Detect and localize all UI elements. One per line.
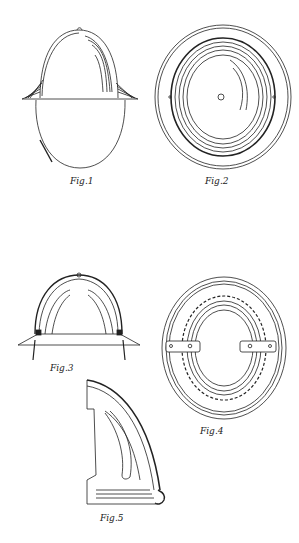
figure-4-label: Fig.4	[200, 426, 223, 436]
figure-5-label: Fig.5	[100, 513, 123, 523]
figure-1-label: Fig.1	[70, 176, 93, 186]
figure-4-bottom-view	[162, 277, 286, 419]
figure-3-label: Fig.3	[50, 363, 73, 373]
figure-1-helmet-front	[22, 28, 138, 168]
figure-5-edge-section	[87, 380, 165, 504]
figure-2-crown-top-view	[155, 25, 291, 169]
figure-2-label: Fig.2	[205, 176, 228, 186]
figure-3-suspension-section	[18, 273, 140, 360]
patent-drawing-sheet	[0, 0, 299, 543]
